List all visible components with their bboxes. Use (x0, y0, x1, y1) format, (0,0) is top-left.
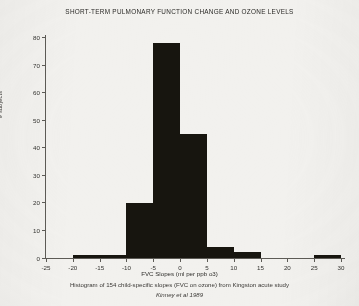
caption-citation: Kinney et al 1989 (0, 291, 359, 298)
x-tick-mark (341, 259, 342, 263)
y-axis-label: # subjects (0, 91, 3, 118)
x-tick-mark (73, 259, 74, 263)
y-tick-label: 30 (14, 171, 40, 178)
caption-primary: Histogram of 154 child-specific slopes (… (0, 281, 359, 288)
x-tick-mark (100, 259, 101, 263)
y-tick-mark (42, 120, 46, 121)
y-tick-label: 70 (14, 61, 40, 68)
histogram-bar (153, 43, 180, 258)
y-tick-label: 40 (14, 144, 40, 151)
x-axis-label: FVC Slopes (ml per ppb o3) (0, 270, 359, 277)
chart-title: SHORT-TERM PULMONARY FUNCTION CHANGE AND… (0, 8, 359, 15)
histogram-bar (207, 247, 234, 258)
x-tick-mark (261, 259, 262, 263)
y-tick-mark (42, 65, 46, 66)
x-tick-mark (180, 259, 181, 263)
x-tick-mark (126, 259, 127, 263)
histogram-figure: SHORT-TERM PULMONARY FUNCTION CHANGE AND… (0, 0, 359, 306)
y-tick-mark (42, 230, 46, 231)
histogram-bar (180, 134, 207, 258)
y-tick-mark (42, 175, 46, 176)
y-tick-label: 0 (14, 254, 40, 261)
histogram-bar (234, 252, 261, 258)
x-tick-mark (234, 259, 235, 263)
x-tick-mark (207, 259, 208, 263)
y-tick-label: 50 (14, 116, 40, 123)
plot-area (46, 37, 341, 258)
histogram-bar (314, 255, 341, 258)
histogram-bar (100, 255, 127, 258)
x-tick-mark (46, 259, 47, 263)
x-tick-mark (287, 259, 288, 263)
x-tick-mark (153, 259, 154, 263)
histogram-bar (73, 255, 100, 258)
y-tick-mark (42, 92, 46, 93)
y-tick-mark (42, 37, 46, 38)
y-tick-label: 80 (14, 34, 40, 41)
y-tick-mark (42, 258, 46, 259)
y-tick-label: 20 (14, 199, 40, 206)
y-tick-label: 10 (14, 227, 40, 234)
y-tick-label: 60 (14, 89, 40, 96)
x-tick-mark (314, 259, 315, 263)
histogram-bar (126, 203, 153, 258)
y-tick-mark (42, 147, 46, 148)
y-tick-mark (42, 202, 46, 203)
